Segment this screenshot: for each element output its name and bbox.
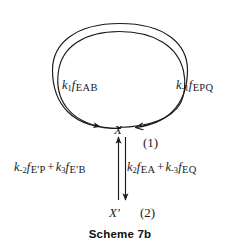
branch-down-term1-species: EA <box>140 164 155 175</box>
cycle-reverse-rate-label: k-1fEPQ <box>176 79 213 93</box>
branch-up-rate-label: k-2fE'P+k3fE'B <box>14 161 86 175</box>
cycle-reverse-species: EPQ <box>192 82 213 93</box>
node-x-label: X <box>114 123 122 136</box>
step-2-label: (2) <box>140 206 155 219</box>
branch-down-operator: + <box>155 160 165 174</box>
step-1-label: (1) <box>143 136 158 149</box>
node-x-prime-label: X' <box>109 206 120 219</box>
branch-down-rate-label: k2fEA+k-3fEQ <box>127 161 197 175</box>
cycle-arrow-outer <box>53 24 188 129</box>
branch-up-term2-species: E'B <box>69 164 86 175</box>
branch-up-operator: + <box>46 160 56 174</box>
cycle-forward-rate-label: k1fEAB <box>62 79 98 93</box>
scheme-caption: Scheme 7b <box>0 228 240 240</box>
branch-up-term1-subscript: -2 <box>20 165 27 175</box>
branch-down-term2-species: EQ <box>182 164 197 175</box>
cycle-reverse-rate-subscript: -1 <box>182 83 189 93</box>
cycle-forward-species: EAB <box>75 82 97 93</box>
branch-up-term1-species: E'P <box>30 164 46 175</box>
scheme-diagram: k1fEAB k-1fEPQ k-2fE'P+k3fE'B k2fEA+k-3f… <box>0 0 240 246</box>
